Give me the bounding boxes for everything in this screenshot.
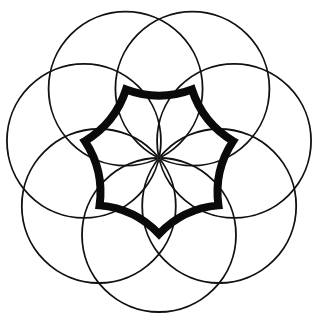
concave-heptagon-star	[85, 90, 233, 234]
geometric-figure	[0, 0, 317, 323]
figure-canvas	[0, 0, 317, 323]
circles-group	[7, 12, 311, 312]
